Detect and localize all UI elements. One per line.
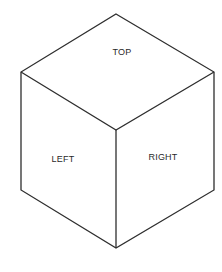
cube-diagram: TOP LEFT RIGHT <box>0 0 222 272</box>
top-face-label: TOP <box>113 47 132 57</box>
left-face-label: LEFT <box>52 154 75 164</box>
right-face-label: RIGHT <box>149 152 178 162</box>
